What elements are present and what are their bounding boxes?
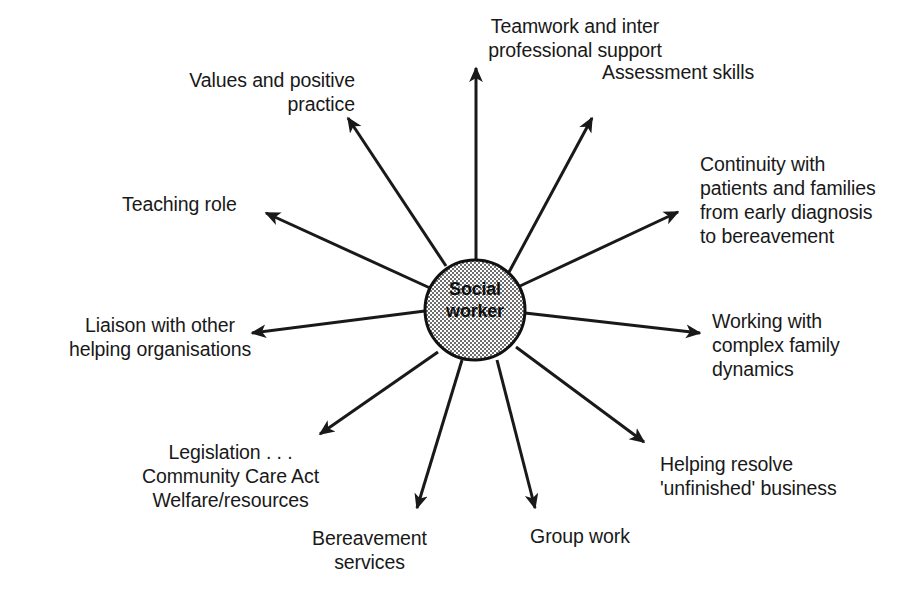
label-group-work: Group work [480,524,680,548]
label-teaching-role: Teaching role [122,192,322,216]
label-continuity: Continuity with patients and families fr… [700,152,915,248]
arrow-group-work [497,360,535,508]
label-complex-family-dynamics: Working with complex family dynamics [712,309,912,381]
label-unfinished-business: Helping resolve 'unfinished' business [660,452,910,500]
label-assessment-skills: Assessment skills [602,60,822,84]
label-legislation: Legislation . . . Community Care Act Wel… [108,440,353,512]
arrow-liaison [252,311,425,333]
hub-circle [425,260,525,360]
arrow-unfinished-business [516,347,644,442]
label-liaison: Liaison with other helping organisations [45,313,275,361]
label-bereavement-services: Bereavement services [262,526,477,574]
label-teamwork: Teamwork and inter professional support [455,14,695,62]
arrow-values-positive-practice [348,118,446,266]
arrow-complex-family-dynamics [525,313,700,333]
arrow-bereavement-services [417,360,462,508]
arrow-legislation [320,352,438,434]
label-values-positive-practice: Values and positive practice [130,68,355,116]
arrow-assessment-skills [508,118,592,274]
diagram-canvas: Teamwork and inter professional supportA… [0,0,918,594]
hub-circle-shape [425,260,525,360]
arrow-continuity [520,212,678,286]
arrow-teaching-role [266,213,430,288]
